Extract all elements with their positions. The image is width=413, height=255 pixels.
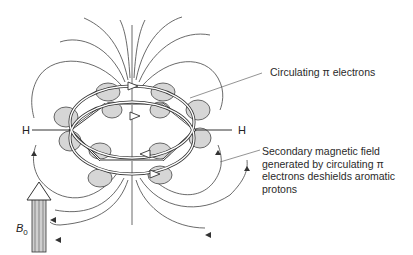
secondary-field-line-2: generated by circulating π (262, 158, 395, 171)
secondary-field-label: Secondary magnetic field generated by ci… (262, 145, 395, 195)
secondary-field-line-4: protons (262, 183, 395, 196)
circulating-electrons-label: Circulating π electrons (270, 66, 375, 79)
h-atom-right: H (238, 124, 246, 136)
secondary-field-line-3: electrons deshields aromatic (262, 170, 395, 183)
ring-current-diagram (0, 0, 413, 255)
b0-subscript: 0 (23, 228, 27, 237)
p-orbital-lobes (54, 83, 211, 187)
b0-arrow (27, 182, 51, 252)
secondary-field-line-1: Secondary magnetic field (262, 145, 395, 158)
h-atom-left: H (22, 124, 30, 136)
b0-label: B0 (16, 222, 28, 237)
